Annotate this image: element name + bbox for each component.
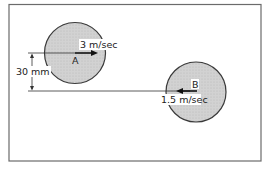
velocity-label-b: 1.5 m/sec: [161, 94, 208, 105]
disk-a-label: A: [72, 55, 79, 66]
disk-b-label: B: [192, 79, 199, 90]
diagram-canvas: 30 mm 3 m/sec A 1.5 m/sec B: [0, 0, 267, 170]
disk-b: [166, 62, 226, 122]
dimension-label: 30 mm: [16, 66, 50, 77]
velocity-label-a: 3 m/sec: [80, 39, 118, 50]
